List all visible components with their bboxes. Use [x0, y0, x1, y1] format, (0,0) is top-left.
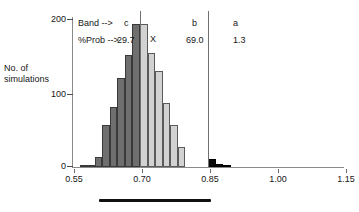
histogram-bar — [80, 165, 88, 167]
x-tick-4: 1.15 — [329, 174, 359, 184]
histogram-bar — [148, 53, 156, 167]
y-tick-200: 200 — [40, 14, 66, 24]
histogram-bar — [110, 107, 118, 167]
band-row-label: Band --> — [78, 18, 113, 28]
histogram-bar — [125, 55, 133, 167]
x-tick-3: 1.00 — [261, 174, 295, 184]
scale-bar — [99, 199, 211, 202]
histogram-bar — [140, 24, 148, 167]
x-tick-1-label: 0.70 — [133, 174, 151, 184]
histogram-bar — [178, 147, 186, 167]
band-prob-b: 69.0 — [186, 35, 204, 45]
histogram-bar — [117, 78, 125, 167]
band-divider-cb — [140, 11, 141, 167]
band-divider-ba — [208, 11, 209, 167]
histogram-bar — [170, 125, 178, 167]
y-tick-0-label: 0 — [61, 161, 66, 171]
x-tick-2: 0.85 — [193, 174, 227, 184]
histogram-bar — [216, 164, 224, 167]
histogram-bar — [223, 165, 231, 167]
band-label-c: c — [124, 18, 129, 28]
x-tick-1: 0.70 — [125, 174, 159, 184]
x-tick-0: 0.55 — [57, 174, 91, 184]
y-tick-100-label: 100 — [51, 89, 66, 99]
x-tick-3-mark — [278, 169, 279, 173]
histogram-bar — [102, 125, 110, 167]
histogram-bar — [132, 24, 140, 167]
x-tick-4-label: 1.15 — [337, 174, 355, 184]
y-tick-200-label: 200 — [51, 14, 66, 24]
x-tick-0-mark — [74, 169, 75, 173]
band-prob-a: 1.3 — [233, 35, 246, 45]
x-tick-1-mark — [142, 169, 143, 173]
x-tick-4-mark — [346, 169, 347, 173]
x-observed-marker: X — [150, 34, 156, 44]
x-tick-2-label: 0.85 — [201, 174, 219, 184]
prob-row-label: %Prob --> — [78, 35, 119, 45]
band-prob-c: 29.7 — [117, 35, 135, 45]
x-tick-3-label: 1.00 — [269, 174, 287, 184]
histogram-bar — [163, 103, 171, 167]
y-tick-0: 0 — [40, 161, 66, 171]
x-axis-line — [72, 167, 344, 168]
band-label-b: b — [192, 18, 197, 28]
band-label-a: a — [233, 18, 238, 28]
y-axis-title-line2: simulations — [4, 74, 49, 84]
histogram-bar — [155, 71, 163, 167]
x-tick-2-mark — [210, 169, 211, 173]
y-tick-100: 100 — [40, 89, 66, 99]
histogram-bar — [208, 159, 216, 167]
histogram-bar — [95, 157, 103, 167]
y-axis-title-line1: No. of — [4, 63, 28, 73]
x-tick-0-label: 0.55 — [65, 174, 83, 184]
y-axis-title: No. ofsimulations — [4, 63, 49, 85]
histogram-bar — [87, 165, 95, 167]
